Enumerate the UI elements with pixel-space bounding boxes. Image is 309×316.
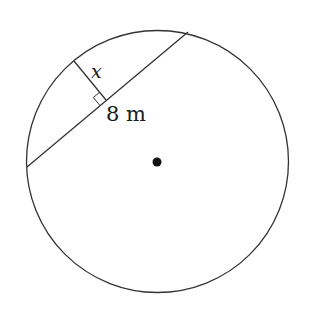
right-angle-marker: [93, 92, 99, 105]
chord-line: [27, 32, 188, 167]
label-8m: 8 m: [106, 102, 146, 126]
center-point: [153, 158, 162, 167]
circle-diagram: x 8 m: [0, 0, 309, 316]
label-x: x: [91, 60, 102, 82]
